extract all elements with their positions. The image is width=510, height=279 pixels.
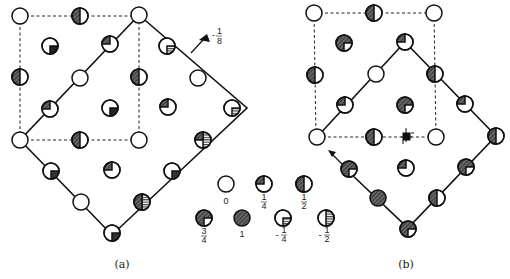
svg-text:2: 2: [324, 234, 329, 244]
svg-text:2: 2: [301, 201, 306, 211]
atom-half: [72, 132, 88, 148]
atom-neg-half: [134, 194, 150, 210]
atom-three-quarter: [397, 97, 413, 113]
atom-empty: [306, 5, 322, 21]
atom-quarter: [42, 101, 58, 117]
atoms-a: [12, 7, 240, 241]
atom-half: [366, 129, 382, 145]
atom-empty: [12, 132, 28, 148]
svg-text:1: 1: [239, 229, 244, 239]
atom-quarter: [398, 160, 414, 176]
svg-text:4: 4: [261, 201, 266, 211]
caption-b: (b): [398, 258, 414, 271]
atom-empty: [72, 70, 88, 86]
legend-item-three-quarter: 3 4: [196, 210, 212, 245]
legend: 0 1 4 1 2 3 4: [196, 176, 334, 245]
atom-quarter-br: [164, 163, 180, 179]
atom-quarter: [337, 97, 353, 113]
atom-half-right-empty: [429, 190, 445, 206]
atom-quarter-br: [104, 225, 120, 241]
atom-empty: [12, 8, 28, 24]
atom-quarter: [102, 36, 118, 52]
atom-three-quarter: [400, 221, 416, 237]
marker-sign: -: [212, 30, 215, 40]
panel-b: (b): [306, 5, 504, 271]
legend-item-half: 1 2: [296, 176, 312, 211]
crystal-structure-figure: - 1 8: [0, 0, 510, 279]
atom-neg-quarter: [224, 100, 240, 116]
rotation-marker-icon: - 1 8: [191, 26, 222, 53]
svg-text:4: 4: [281, 234, 286, 244]
atom-full: [370, 190, 386, 206]
atom-quarter: [457, 96, 473, 112]
panel-a: - 1 8: [12, 7, 247, 271]
atom-three-quarter: [336, 35, 352, 51]
atom-quarter: [104, 162, 120, 178]
atom-half: [131, 69, 147, 85]
atoms-b: [306, 5, 504, 237]
atom-quarter-br: [43, 163, 59, 179]
atom-empty: [309, 129, 325, 145]
atom-empty: [190, 70, 206, 86]
legend-item-quarter: 1 4: [256, 176, 272, 211]
svg-text:0: 0: [223, 196, 228, 206]
svg-text:4: 4: [201, 235, 206, 245]
atom-quarter-br: [102, 100, 118, 116]
atom-neg-quarter: [159, 38, 175, 54]
atom-empty: [368, 66, 384, 82]
atom-empty: [131, 7, 147, 23]
atom-half: [12, 69, 28, 85]
atom-empty: [131, 132, 147, 148]
atom-half: [72, 8, 88, 24]
atom-half: [307, 67, 323, 83]
atom-half: [488, 128, 504, 144]
marker-den: 8: [217, 36, 222, 46]
atom-three-quarter: [341, 161, 357, 177]
atom-quarter-br: [42, 38, 58, 54]
marker-num: 1: [217, 26, 222, 36]
caption-a: (a): [114, 258, 129, 271]
atom-empty: [428, 129, 444, 145]
atom-empty: [426, 5, 442, 21]
atom-half: [427, 66, 443, 82]
atom-neg-half: [195, 132, 211, 148]
legend-item-0: 0: [218, 176, 234, 206]
svg-text:-: -: [319, 230, 322, 240]
symmetry-marker-icon: [401, 128, 414, 144]
legend-item-neg-half: - 1 2: [318, 210, 334, 244]
atom-quarter: [397, 34, 413, 50]
atom-empty: [73, 194, 89, 210]
atom-quarter: [160, 99, 176, 115]
atom-three-quarter: [458, 159, 474, 175]
atom-half: [366, 5, 382, 21]
svg-text:-: -: [276, 230, 279, 240]
legend-item-neg-quarter: - 1 4: [275, 210, 291, 244]
legend-item-full: 1: [234, 210, 250, 239]
arrow-icon: [328, 150, 342, 164]
